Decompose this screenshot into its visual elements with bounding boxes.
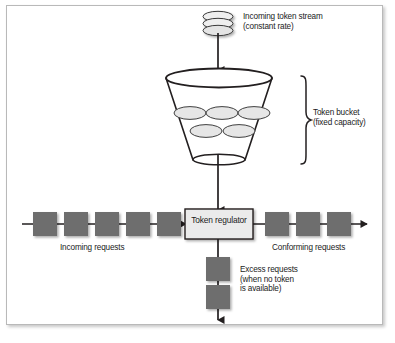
request-block [206, 257, 230, 281]
token [206, 107, 238, 120]
conforming-request-blocks [265, 212, 351, 236]
label-incoming-requests: Incoming requests [60, 243, 124, 253]
request-block [64, 212, 88, 236]
incoming-request-blocks [33, 212, 181, 236]
request-block [33, 212, 57, 236]
label-token-bucket: Token bucket (fixed capacity) [313, 108, 366, 127]
token [238, 107, 270, 120]
request-block [95, 212, 119, 236]
token [223, 125, 255, 138]
diagram-figure: Incoming token stream (constant rate) To… [0, 0, 395, 343]
request-block [206, 285, 230, 309]
request-block [126, 212, 150, 236]
label-conforming-requests: Conforming requests [272, 243, 345, 253]
token-stream-stack [203, 11, 233, 35]
request-block [327, 212, 351, 236]
diagram-canvas [0, 0, 395, 343]
token [174, 107, 206, 120]
token-bucket-brace [301, 76, 311, 164]
label-incoming-token-stream: Incoming token stream (constant rate) [243, 12, 323, 31]
label-token-regulator: Token regulator [185, 216, 253, 226]
token [190, 125, 222, 138]
request-block [296, 212, 320, 236]
label-excess-requests: Excess requests (when no token is availa… [240, 265, 298, 294]
request-block [265, 212, 289, 236]
request-block [157, 212, 181, 236]
